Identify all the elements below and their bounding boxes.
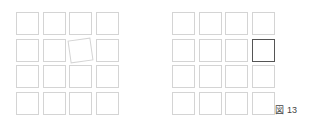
grid-cell — [16, 39, 39, 62]
grid-cell — [252, 65, 275, 88]
grid-cell — [199, 92, 222, 115]
grid-cell — [225, 92, 248, 115]
grid-cell — [252, 92, 275, 115]
grid-cell — [225, 12, 248, 35]
grid-cell — [225, 39, 248, 62]
grid-cell — [43, 12, 66, 35]
grid-cell — [172, 12, 195, 35]
grid-cell — [16, 92, 39, 115]
grid-cell — [69, 65, 92, 88]
grid-cell — [43, 92, 66, 115]
grid-cell — [199, 39, 222, 62]
grid-cell — [69, 12, 92, 35]
grid-cell — [16, 12, 39, 35]
grid-cell — [199, 65, 222, 88]
grid-cell — [96, 39, 119, 62]
grid-cell — [96, 92, 119, 115]
figure-caption: 図 13 — [275, 103, 297, 116]
rotated-grid-cell — [68, 37, 94, 63]
grid-cell — [43, 65, 66, 88]
highlighted-grid-cell — [252, 39, 275, 62]
grid-cell — [199, 12, 222, 35]
grid-cell — [172, 92, 195, 115]
grid-cell — [172, 65, 195, 88]
grid-cell — [172, 39, 195, 62]
grid-cell — [16, 65, 39, 88]
grid-cell — [43, 39, 66, 62]
grid-cell — [96, 12, 119, 35]
grid-cell — [225, 65, 248, 88]
grid-cell — [69, 92, 92, 115]
grid-cell — [252, 12, 275, 35]
grid-cell — [96, 65, 119, 88]
